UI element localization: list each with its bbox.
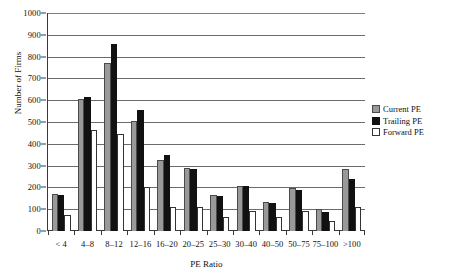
x-axis-tick-label: 30–40 (233, 240, 259, 254)
y-axis-tick-label: 700 (28, 74, 41, 83)
legend-label: Current PE (383, 105, 421, 114)
bar-groups (48, 13, 365, 231)
bar-group (74, 13, 100, 231)
legend-item: Trailing PE (372, 117, 464, 126)
y-axis-tick-mark (41, 231, 46, 232)
bar (329, 221, 335, 231)
legend-item: Forward PE (372, 128, 464, 137)
bar-group (207, 13, 233, 231)
x-axis-tick-mark (339, 231, 340, 235)
legend-swatch-trailing (372, 117, 380, 125)
x-axis-tick-mark (101, 231, 102, 235)
bar (276, 217, 282, 231)
y-axis-tick-label: 500 (28, 118, 41, 127)
y-axis-tick-mark (41, 122, 46, 123)
x-axis-tick-mark (312, 231, 313, 235)
y-axis-tick-mark (41, 56, 46, 57)
y-axis-tick-mark (41, 165, 46, 166)
y-axis-tick-label: 200 (28, 183, 41, 192)
bar (302, 211, 308, 231)
x-axis-tick-mark (207, 231, 208, 235)
bar (223, 217, 229, 231)
bar (197, 207, 203, 231)
legend-swatch-current (372, 105, 380, 113)
y-axis-tick-mark (41, 100, 46, 101)
x-axis-tick-label: 75–100 (312, 240, 338, 254)
x-axis-tick-mark (48, 231, 49, 235)
x-axis-title: PE Ratio (48, 259, 365, 269)
x-axis-tick-label: 4–8 (74, 240, 100, 254)
bar (117, 134, 123, 231)
y-axis-tick-label: 100 (28, 205, 41, 214)
x-axis-tick-mark (259, 231, 260, 235)
x-axis-tick-label: 50–75 (286, 240, 312, 254)
bar-group (312, 13, 338, 231)
bar (91, 130, 97, 231)
legend-label: Trailing PE (383, 117, 422, 126)
bar-group (127, 13, 153, 231)
bar-group (233, 13, 259, 231)
y-axis-tick-mark (41, 34, 46, 35)
bar-group (101, 13, 127, 231)
y-axis-tick-mark (41, 187, 46, 188)
y-axis-tick-mark (41, 209, 46, 210)
x-axis-tick-mark (286, 231, 287, 235)
y-axis-tick-label: 1000 (23, 9, 41, 18)
x-axis-tick-label: 8–12 (101, 240, 127, 254)
x-axis-tick-label: < 4 (48, 240, 74, 254)
bar (249, 211, 255, 231)
x-axis-tick-mark (233, 231, 234, 235)
legend-item: Current PE (372, 105, 464, 114)
x-axis-tick-mark (154, 231, 155, 235)
x-axis-tick-label: 40–50 (259, 240, 285, 254)
x-axis-tick-mark (364, 231, 365, 235)
y-axis-tick-mark (41, 78, 46, 79)
bar-group (180, 13, 206, 231)
x-axis-tick-label: >100 (339, 240, 365, 254)
x-axis-tick-label: 12–16 (127, 240, 153, 254)
y-axis-tick-label: 300 (28, 161, 41, 170)
legend-swatch-forward (372, 128, 380, 136)
x-axis-tick-mark (74, 231, 75, 235)
bar-group (48, 13, 74, 231)
x-axis-tick-mark (180, 231, 181, 235)
x-axis-tick-mark (127, 231, 128, 235)
legend-label: Forward PE (383, 128, 424, 137)
bar-group (259, 13, 285, 231)
bar (144, 187, 150, 231)
bar (170, 207, 176, 231)
bar-group (339, 13, 365, 231)
y-axis-tick-label: 800 (28, 52, 41, 61)
y-axis-tick-labels: 10009008007006005004003002001000 (0, 0, 47, 232)
y-axis-tick-mark (41, 13, 46, 14)
x-axis-tick-labels: < 44–88–1212–1616–2020–2525–3030–4040–50… (48, 240, 365, 254)
x-axis-tick-label: 16–20 (154, 240, 180, 254)
y-axis-tick-mark (41, 143, 46, 144)
y-axis-tick-label: 600 (28, 96, 41, 105)
y-axis-tick-label: 400 (28, 140, 41, 149)
x-axis-tick-label: 20–25 (180, 240, 206, 254)
x-axis-tick-label: 25–30 (207, 240, 233, 254)
chart-container: Number of Firms 100090080070060050040030… (0, 0, 468, 276)
y-axis-tick-label: 900 (28, 31, 41, 40)
bar (64, 215, 70, 231)
bar-group (286, 13, 312, 231)
bar (355, 207, 361, 231)
legend: Current PETrailing PEForward PE (372, 105, 464, 137)
bar-group (154, 13, 180, 231)
